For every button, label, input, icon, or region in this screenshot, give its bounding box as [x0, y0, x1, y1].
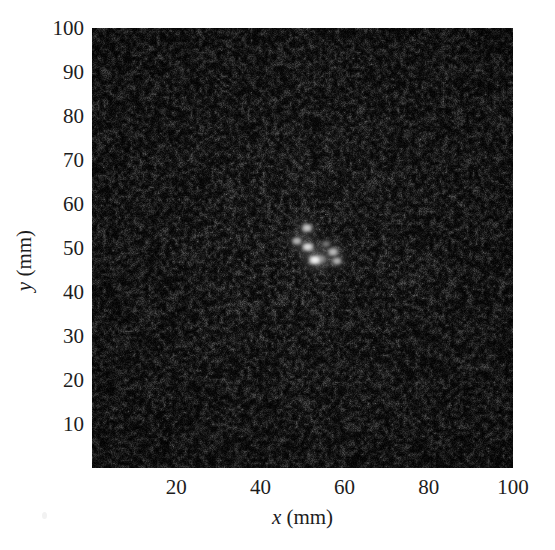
y-tick-label-90: 90	[24, 62, 84, 83]
y-axis-title: y (mm)	[12, 201, 37, 321]
x-axis-title: x (mm)	[92, 505, 513, 530]
x-tick-label-100: 100	[497, 477, 529, 498]
y-axis-unit: (mm)	[12, 230, 36, 282]
y-axis-symbol: y	[12, 282, 36, 291]
x-tick-label-40: 40	[250, 477, 271, 498]
x-tick-label-60: 60	[334, 477, 355, 498]
y-tick-label-30: 30	[24, 326, 84, 347]
intensity-map-image	[92, 28, 513, 468]
y-tick-label-70: 70	[24, 150, 84, 171]
y-tick-label-10: 10	[24, 414, 84, 435]
y-tick-label-100: 100	[24, 18, 84, 39]
y-tick-label-20: 20	[24, 370, 84, 391]
vignette-overlay	[92, 28, 513, 468]
x-tick-label-80: 80	[418, 477, 439, 498]
scan-artifact-speck	[42, 512, 47, 519]
x-tick-label-20: 20	[166, 477, 187, 498]
x-axis-unit: (mm)	[281, 505, 333, 529]
x-axis-symbol: x	[272, 505, 281, 529]
figure-container: 102030405060708090100 20406080100 x (mm)…	[0, 0, 555, 550]
y-tick-label-80: 80	[24, 106, 84, 127]
